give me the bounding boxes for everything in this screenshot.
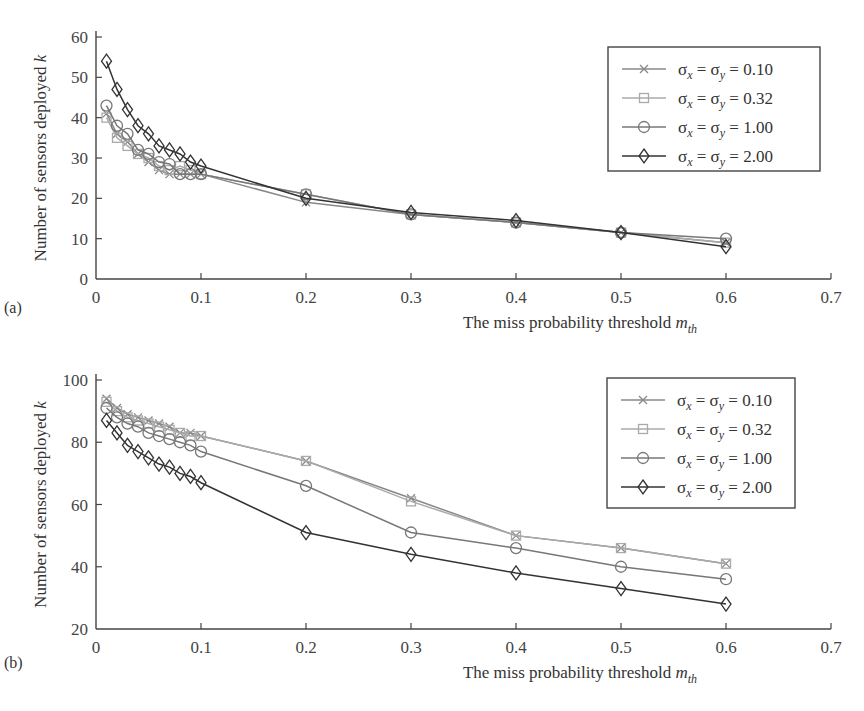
y-tick-label: 20 [71, 189, 88, 208]
legend-label: σx = σy = 0.32 [678, 89, 773, 111]
x-tick-label: 0.6 [715, 288, 736, 307]
legend: σx = σy = 0.10σx = σy = 0.32σx = σy = 1.… [608, 47, 820, 171]
y-tick-label: 40 [71, 109, 88, 128]
chart-b-canvas: 00.10.20.30.40.50.60.720406080100Number … [0, 345, 864, 711]
x-tick-label: 0.3 [400, 288, 421, 307]
y-tick-label: 80 [71, 433, 88, 452]
y-axis-title: Number of sensors deployed k [31, 54, 50, 261]
x-tick-label: 0.4 [505, 638, 527, 657]
y-tick-label: 0 [80, 270, 89, 289]
data-point-marker [102, 54, 112, 68]
x-tick-label: 0.1 [190, 638, 211, 657]
x-tick-label: 0.3 [400, 638, 421, 657]
x-tick-label: 0.7 [820, 288, 842, 307]
x-axis-title: The miss probability threshold mth [463, 313, 697, 336]
y-tick-label: 100 [63, 371, 89, 390]
x-tick-label: 0 [92, 638, 101, 657]
legend: σx = σy = 0.10σx = σy = 0.32σx = σy = 1.… [607, 378, 795, 508]
y-tick-label: 30 [71, 149, 88, 168]
legend-label: σx = σy = 0.10 [678, 60, 773, 82]
x-tick-label: 0.6 [715, 638, 736, 657]
data-point-marker [103, 395, 111, 403]
x-tick-label: 0.1 [190, 288, 211, 307]
panel-label: (b) [4, 654, 23, 672]
x-tick-label: 0.2 [295, 638, 316, 657]
chart-panel-b: 00.10.20.30.40.50.60.720406080100Number … [0, 345, 864, 711]
y-tick-label: 60 [71, 28, 88, 47]
legend-label: σx = σy = 0.10 [677, 391, 772, 413]
chart-a-canvas: 00.10.20.30.40.50.60.70102030405060Numbe… [0, 0, 864, 340]
legend-label: σx = σy = 1.00 [677, 449, 772, 471]
y-tick-label: 20 [71, 620, 88, 639]
chart-panel-a: 00.10.20.30.40.50.60.70102030405060Numbe… [0, 0, 864, 340]
y-tick-label: 60 [71, 496, 88, 515]
x-tick-label: 0.5 [610, 638, 631, 657]
legend-label: σx = σy = 1.00 [678, 118, 773, 140]
legend-label: σx = σy = 2.00 [677, 478, 772, 500]
x-tick-label: 0.4 [505, 288, 527, 307]
x-tick-label: 0.5 [610, 288, 631, 307]
panel-label: (a) [4, 299, 22, 317]
y-axis-title: Number of sensors deployed k [31, 401, 50, 608]
legend-label: σx = σy = 0.32 [677, 420, 772, 442]
y-tick-label: 10 [71, 230, 88, 249]
y-tick-label: 50 [71, 68, 88, 87]
x-tick-label: 0.7 [820, 638, 842, 657]
x-axis-title: The miss probability threshold mth [463, 663, 697, 686]
y-tick-label: 40 [71, 558, 88, 577]
legend-label: σx = σy = 2.00 [678, 147, 773, 169]
x-tick-label: 0 [92, 288, 101, 307]
x-tick-label: 0.2 [295, 288, 316, 307]
